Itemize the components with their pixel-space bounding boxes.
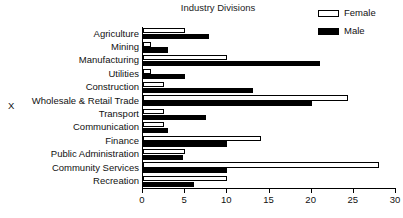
x-axis-tick-label: 15 [254,194,284,205]
x-axis-tick [353,189,354,193]
category-label: Recreation [1,176,139,186]
bar-male [143,128,168,133]
x-axis-tick [269,189,270,193]
category-label: Manufacturing [1,55,139,65]
bar-group [143,81,396,94]
bar-female [143,162,379,167]
bar-male [143,182,194,187]
bar-group [143,40,396,53]
bar-female [143,42,151,47]
bar-female [143,28,185,33]
bar-female [143,82,164,87]
category-label: Transport [1,109,139,119]
x-axis-tick-label: 10 [211,194,241,205]
category-label: Mining [1,42,139,52]
x-axis: 051015202530 [142,188,396,216]
x-axis-tick-label: 20 [296,194,326,205]
bar-male [143,141,227,146]
category-axis-labels: AgricultureMiningManufacturingUtilitiesC… [0,27,139,188]
category-label: Community Services [1,163,139,173]
bar-group [143,148,396,161]
female-swatch-icon [318,10,339,17]
bar-male [143,88,253,93]
chart-title: Industry Divisions [143,2,293,13]
x-axis-tick [311,189,312,193]
bar-group [143,27,396,40]
bar-group [143,94,396,107]
bar-female [143,136,261,141]
category-label: Communication [1,122,139,132]
bar-female [143,95,348,100]
category-label: Finance [1,136,139,146]
x-axis-tick [142,189,143,193]
category-label: Public Administration [1,149,139,159]
legend-label-female: Female [344,8,376,18]
plot-area [142,27,396,188]
bar-chart: Industry Divisions Female Male X Agricul… [0,0,403,218]
bar-male [143,168,227,173]
bar-male [143,155,183,160]
x-axis-tick-label: 5 [169,194,199,205]
bar-female [143,122,164,127]
bar-male [143,115,206,120]
x-axis-tick [226,189,227,193]
bar-group [143,121,396,134]
bar-female [143,109,164,114]
bar-female [143,69,151,74]
bar-male [143,47,168,52]
bar-group [143,161,396,174]
x-axis-tick-label: 0 [127,194,157,205]
bar-group [143,67,396,80]
category-label: Agriculture [1,29,139,39]
bar-group [143,175,396,188]
bar-male [143,101,312,106]
x-axis-tick-label: 25 [338,194,368,205]
bar-male [143,61,320,66]
category-label: Construction [1,82,139,92]
category-label: Wholesale & Retail Trade [1,96,139,106]
x-axis-tick [184,189,185,193]
bar-male [143,34,209,39]
legend-item-female: Female [318,6,403,20]
bar-female [143,176,227,181]
category-label: Utilities [1,69,139,79]
bar-group [143,108,396,121]
bar-female [143,55,227,60]
bar-group [143,54,396,67]
bar-male [143,74,185,79]
x-axis-tick [395,189,396,193]
x-axis-tick-label: 30 [380,194,403,205]
bar-group [143,134,396,147]
bar-female [143,149,185,154]
